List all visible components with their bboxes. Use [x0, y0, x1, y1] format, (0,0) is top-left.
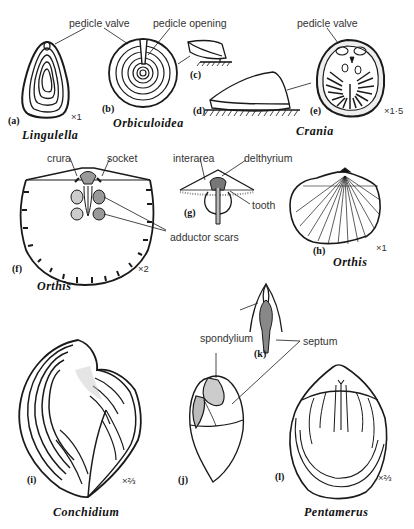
scale-a: ×1 — [71, 112, 82, 122]
figure-label-k: (k) — [254, 349, 266, 359]
pentamerus-shell-drawing — [290, 365, 387, 499]
orthis-interior-drawing — [21, 168, 154, 285]
genus-pentamerus: Pentamerus — [304, 506, 368, 518]
scale-f: ×2 — [138, 264, 149, 274]
figure-label-l: (l) — [275, 472, 284, 482]
leader-delthyrium — [222, 160, 246, 176]
annotation-pedicle-valve-right: pedicle valve — [297, 18, 358, 29]
scale-l: ×⅔ — [378, 473, 391, 483]
lingulella-shell-drawing — [22, 42, 69, 118]
crania-interior-drawing — [317, 40, 384, 116]
annotation-delthyrium: delthyrium — [244, 153, 292, 164]
crania-side-view-drawing — [204, 72, 300, 116]
genus-lingulella: Lingulella — [22, 129, 78, 141]
figure-label-f: (f) — [12, 264, 22, 274]
scale-e: ×1·5 — [384, 106, 403, 116]
figure-label-g: (g) — [184, 208, 196, 218]
annotation-pedicle-valve-left: pedicle valve — [69, 18, 130, 29]
scale-h: ×1 — [376, 243, 387, 253]
leader-c — [178, 56, 190, 64]
annotation-interarea: interarea — [173, 153, 214, 164]
annotation-spondylium: spondylium — [200, 333, 253, 344]
figure-label-j: (j) — [178, 475, 188, 485]
orthis-exterior-drawing — [290, 168, 380, 244]
figure-label-h: (h) — [313, 246, 325, 256]
leader-adductor-1 — [104, 197, 166, 230]
leader-septum-k — [276, 340, 300, 341]
annotation-pedicle-opening: pedicle opening — [153, 18, 227, 29]
annotation-socket: socket — [107, 153, 137, 164]
genus-orbiculoidea: Orbiculoidea — [113, 117, 184, 129]
annotation-tooth: tooth — [252, 200, 275, 211]
spondylium-cross-section-k-drawing — [250, 284, 282, 353]
figure-label-a: (a) — [8, 116, 20, 126]
genus-orthis-f: Orthis — [37, 280, 71, 292]
orbiculoidea-shell-drawing — [109, 39, 177, 107]
leader-adductor-2 — [104, 214, 166, 231]
side-view-c-drawing — [188, 41, 232, 66]
annotation-adductor-scars: adductor scars — [170, 232, 239, 243]
figure-label-e: (e) — [310, 106, 321, 116]
annotation-septum: septum — [303, 336, 337, 347]
leader-tooth — [230, 191, 250, 204]
figure-label-d: (d) — [193, 106, 205, 116]
figure-label-b: (b) — [102, 104, 114, 114]
leader-pedicle-valve-a — [55, 28, 85, 44]
figure-label-i: (i) — [27, 475, 36, 485]
scale-i: ×⅔ — [122, 476, 135, 486]
leader-pedicle-valve-e — [327, 28, 338, 43]
figure-label-c: (c) — [190, 70, 201, 80]
annotation-crura: crura — [47, 153, 71, 164]
leader-d-e — [287, 83, 311, 90]
leader-crura — [70, 158, 77, 176]
leader-pedicle-valve-b — [104, 28, 128, 44]
conchidium-shell-drawing — [19, 340, 141, 497]
genus-conchidium: Conchidium — [53, 506, 119, 518]
genus-orthis-h: Orthis — [333, 256, 367, 268]
spondylium-j-drawing — [190, 376, 244, 482]
genus-crania: Crania — [296, 125, 334, 137]
